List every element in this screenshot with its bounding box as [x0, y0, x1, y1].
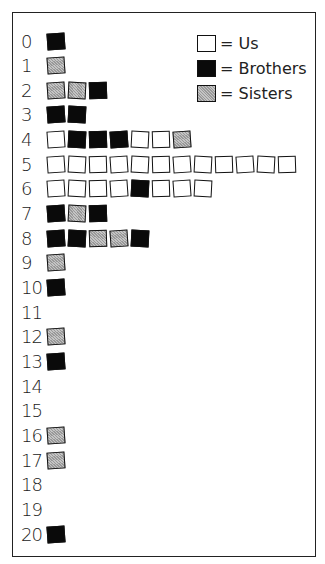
row-label: 15	[13, 400, 47, 421]
chart-row-15: 15	[13, 399, 47, 423]
chart-row-18: 18	[13, 473, 47, 497]
chart-row-3: 3	[13, 103, 89, 127]
chart-row-19: 19	[13, 497, 47, 521]
row-label: 2	[13, 80, 47, 101]
row-label: 3	[13, 104, 47, 125]
row-label: 10	[13, 277, 47, 298]
legend-label: = Us	[220, 34, 259, 53]
chart-row-12: 12	[13, 325, 68, 349]
row-label: 8	[13, 228, 47, 249]
row-label: 20	[13, 524, 47, 545]
chart-row-7: 7	[13, 202, 110, 226]
chart-row-5: 5	[13, 152, 299, 176]
chart-row-2: 2	[13, 78, 110, 102]
us-square-icon	[46, 155, 65, 173]
row-label: 16	[13, 425, 47, 446]
row-label: 0	[13, 31, 47, 52]
legend-label: = Brothers	[220, 59, 307, 78]
chart-row-14: 14	[13, 374, 47, 398]
chart-row-8: 8	[13, 226, 152, 250]
chart-row-6: 6	[13, 177, 215, 201]
sisters-square-icon	[172, 130, 191, 148]
brothers-swatch-icon	[197, 60, 216, 77]
us-square-icon	[89, 180, 108, 198]
chart-frame: = Us= Brothers= Sisters 0123456789101112…	[12, 12, 316, 557]
row-label: 4	[13, 129, 47, 150]
row-label: 5	[13, 154, 47, 175]
brothers-square-icon	[89, 131, 108, 149]
us-square-icon	[109, 180, 128, 198]
brothers-square-icon	[46, 352, 65, 370]
sisters-square-icon	[46, 254, 65, 272]
brothers-square-icon	[109, 130, 128, 148]
brothers-square-icon	[68, 131, 87, 149]
us-square-icon	[257, 155, 276, 173]
brothers-square-icon	[46, 278, 65, 296]
us-square-icon	[152, 131, 171, 149]
us-square-icon	[235, 155, 254, 173]
us-square-icon	[131, 155, 150, 173]
brothers-square-icon	[131, 180, 150, 198]
us-square-icon	[89, 155, 108, 173]
row-label: 18	[13, 474, 47, 495]
row-label: 1	[13, 55, 47, 76]
us-square-icon	[109, 155, 128, 173]
sisters-square-icon	[46, 328, 65, 346]
sisters-square-icon	[109, 229, 128, 247]
chart-row-13: 13	[13, 349, 68, 373]
brothers-square-icon	[46, 229, 65, 247]
chart-row-4: 4	[13, 128, 194, 152]
us-square-icon	[152, 180, 171, 198]
chart-row-10: 10	[13, 276, 68, 300]
us-square-icon	[131, 131, 150, 149]
us-square-icon	[194, 180, 213, 198]
sisters-swatch-icon	[197, 85, 216, 102]
row-label: 13	[13, 351, 47, 372]
brothers-square-icon	[46, 525, 65, 543]
sisters-square-icon	[46, 57, 65, 75]
legend-label: = Sisters	[220, 84, 292, 103]
sisters-square-icon	[46, 81, 65, 99]
brothers-square-icon	[89, 81, 108, 99]
us-square-icon	[172, 180, 191, 198]
legend-item-brothers: = Brothers	[197, 56, 307, 81]
row-label: 17	[13, 450, 47, 471]
row-label: 7	[13, 203, 47, 224]
row-label: 9	[13, 252, 47, 273]
sisters-square-icon	[68, 81, 87, 99]
row-label: 11	[13, 302, 47, 323]
row-label: 12	[13, 326, 47, 347]
brothers-square-icon	[68, 106, 87, 124]
chart-row-11: 11	[13, 300, 47, 324]
us-square-icon	[152, 155, 171, 173]
brothers-square-icon	[46, 106, 65, 124]
legend-item-us: = Us	[197, 31, 307, 56]
row-label: 6	[13, 178, 47, 199]
sisters-square-icon	[89, 229, 108, 247]
sisters-square-icon	[46, 426, 65, 444]
us-square-icon	[194, 155, 213, 173]
row-label: 19	[13, 499, 47, 520]
chart-row-0: 0	[13, 29, 68, 53]
legend: = Us= Brothers= Sisters	[197, 31, 307, 106]
us-square-icon	[68, 155, 87, 173]
brothers-square-icon	[68, 229, 87, 247]
brothers-square-icon	[131, 229, 150, 247]
us-square-icon	[172, 155, 191, 173]
sisters-square-icon	[68, 205, 87, 223]
us-square-icon	[46, 130, 65, 148]
brothers-square-icon	[46, 32, 65, 50]
chart-row-16: 16	[13, 423, 68, 447]
chart-row-9: 9	[13, 251, 68, 275]
sisters-square-icon	[46, 451, 65, 469]
us-square-icon	[278, 155, 297, 173]
legend-item-sisters: = Sisters	[197, 81, 307, 106]
brothers-square-icon	[46, 204, 65, 222]
us-square-icon	[215, 155, 234, 173]
row-label: 14	[13, 376, 47, 397]
chart-row-1: 1	[13, 54, 68, 78]
chart-row-17: 17	[13, 448, 68, 472]
brothers-square-icon	[89, 205, 108, 223]
chart-row-20: 20	[13, 522, 68, 546]
us-square-icon	[46, 180, 65, 198]
